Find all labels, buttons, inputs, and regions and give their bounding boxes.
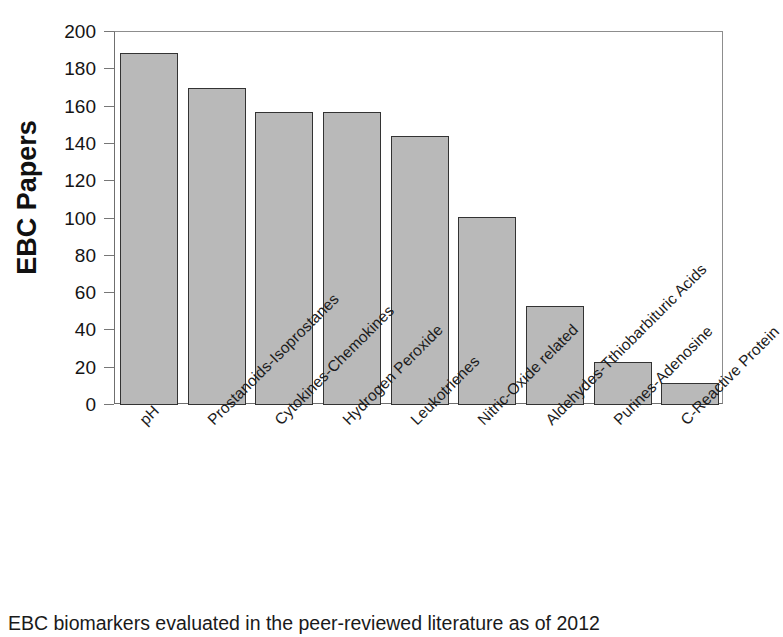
y-axis-tick-label-text: 100 [64, 208, 96, 230]
y-axis-tick [104, 68, 114, 69]
y-axis-tick [104, 404, 114, 405]
y-axis-tick [104, 180, 114, 181]
x-axis-tick-label: pH [136, 402, 163, 429]
y-axis-tick [104, 31, 114, 32]
y-axis-tick [104, 106, 114, 107]
y-axis-tick-label-text: 140 [64, 133, 96, 155]
y-axis-tick [104, 367, 114, 368]
y-axis-tick [104, 218, 114, 219]
bar [188, 88, 246, 405]
y-axis-tick [104, 143, 114, 144]
y-axis-tick [104, 255, 114, 256]
y-axis-tick [104, 292, 114, 293]
y-axis-tick-label-text: 80 [75, 245, 96, 267]
y-axis-tick [104, 329, 114, 330]
bar [120, 53, 178, 405]
y-axis-tick-label-text: 60 [75, 282, 96, 304]
y-axis-tick-label-text: 40 [75, 319, 96, 341]
y-axis-tick-label-text: 200 [64, 21, 96, 43]
y-axis-tick-label-text: 20 [75, 357, 96, 379]
y-axis-tick-label-text: 0 [85, 394, 96, 416]
figure-caption: EBC biomarkers evaluated in the peer-rev… [8, 612, 728, 634]
y-axis-tick-label-text: 120 [64, 170, 96, 192]
y-axis-title: EBC Papers [12, 98, 43, 298]
y-axis-tick-label-text: 160 [64, 96, 96, 118]
y-axis-tick-label-text: 180 [64, 58, 96, 80]
